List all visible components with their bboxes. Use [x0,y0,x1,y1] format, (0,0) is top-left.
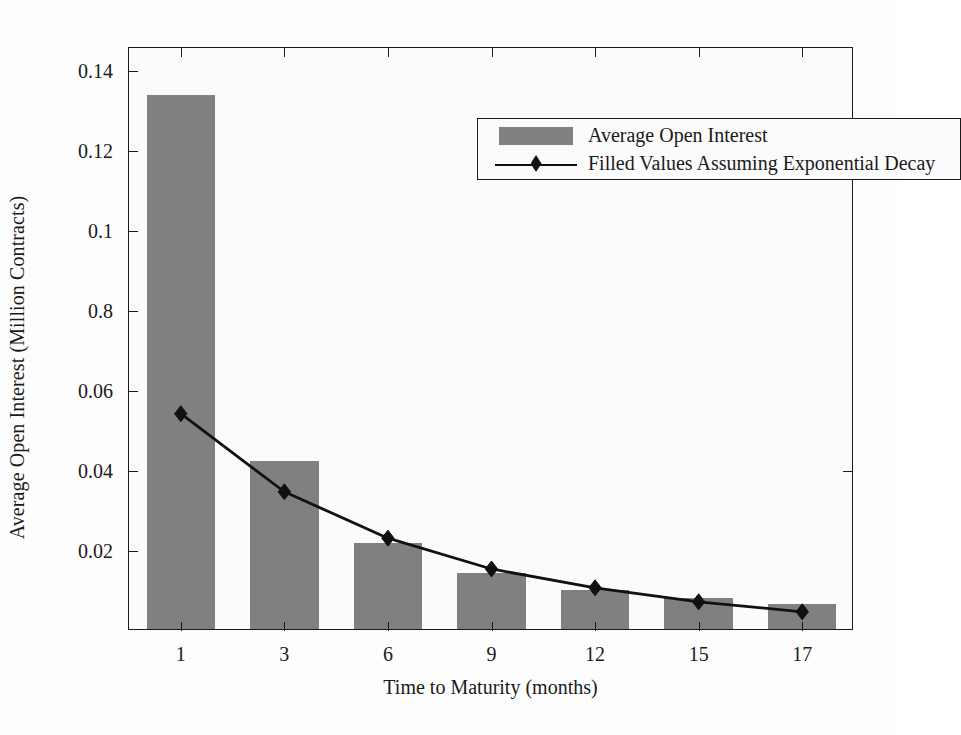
y-tick-mark-0.1 [129,231,138,232]
legend-box: Average Open Interest Filled Values Assu… [477,118,961,180]
legend-swatch-icon [492,127,580,145]
x-tick-mark-17 [802,622,803,631]
x-tick-mark-6 [388,622,389,631]
x-tick-label-17: 17 [792,643,812,666]
y-axis-title: Average Open Interest (Million Contracts… [0,0,34,735]
legend-line-marker-icon [492,157,580,171]
legend-label-average-open-interest: Average Open Interest [588,124,768,147]
y-tick-mark-0.04 [129,471,138,472]
x-tick-label-1: 1 [176,643,186,666]
x-tick-label-6: 6 [383,643,393,666]
decay-marker-17 [796,604,808,620]
y-tick-mark-0.8 [129,311,138,312]
x-tick-mark-top-17 [802,48,803,57]
decay-marker-3 [278,484,290,500]
y-tick-mark-0.14 [129,71,138,72]
y-tick-label-0.06: 0.06 [78,379,113,402]
x-tick-mark-12 [595,622,596,631]
x-tick-mark-top-1 [181,48,182,57]
x-tick-label-12: 12 [585,643,605,666]
y-tick-mark-right-0.04 [843,471,852,472]
y-tick-label-0.1: 0.1 [88,219,113,242]
legend-entry-filled-values: Filled Values Assuming Exponential Decay [478,150,960,177]
legend-entry-average-open-interest: Average Open Interest [478,122,960,149]
x-tick-mark-3 [284,622,285,631]
y-tick-label-0.14: 0.14 [78,59,113,82]
decay-marker-9 [485,561,497,577]
x-tick-label-9: 9 [487,643,497,666]
decay-line-path [181,414,802,612]
x-tick-mark-1 [181,622,182,631]
decay-marker-12 [589,580,601,596]
decay-marker-15 [692,594,704,610]
y-tick-label-0.02: 0.02 [78,539,113,562]
x-tick-mark-top-9 [492,48,493,57]
decay-marker-6 [382,530,394,546]
y-tick-label-0.8: 0.8 [88,299,113,322]
x-axis-title: Time to Maturity (months) [128,676,853,699]
legend-label-filled-values: Filled Values Assuming Exponential Decay [588,152,935,175]
x-tick-mark-top-3 [284,48,285,57]
plot-area: 0.020.040.060.80.10.120.14 1369121517 Av… [128,47,853,630]
decay-marker-1 [175,406,187,422]
y-tick-mark-0.06 [129,391,138,392]
x-tick-mark-top-6 [388,48,389,57]
y-tick-label-0.04: 0.04 [78,459,113,482]
x-tick-mark-top-15 [699,48,700,57]
x-tick-mark-15 [699,622,700,631]
y-tick-label-0.12: 0.12 [78,139,113,162]
y-tick-mark-0.12 [129,151,138,152]
x-tick-label-3: 3 [279,643,289,666]
x-tick-label-15: 15 [689,643,709,666]
y-tick-mark-0.02 [129,551,138,552]
x-tick-mark-9 [492,622,493,631]
x-tick-mark-top-12 [595,48,596,57]
